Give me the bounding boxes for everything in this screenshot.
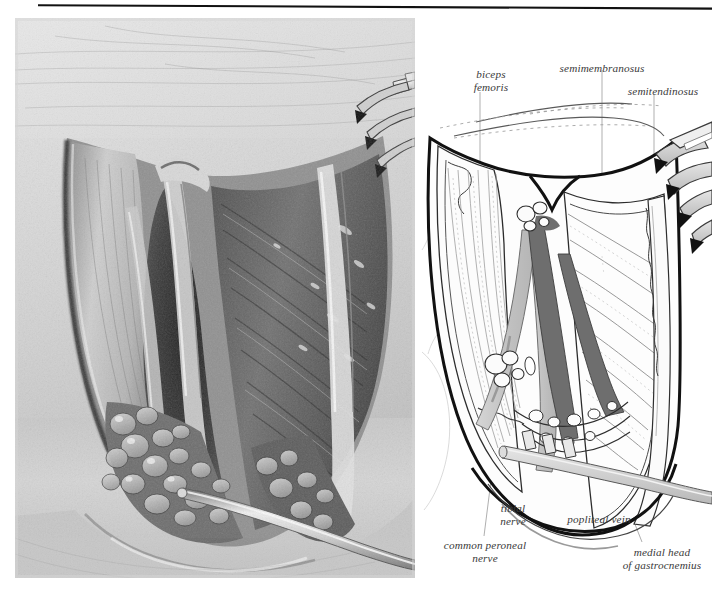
figure-root: biceps femoris semimembranosus semitendi… <box>0 0 712 593</box>
label-semitendinosus: semitendinosus <box>614 85 712 98</box>
clinical-photograph <box>15 18 415 578</box>
label-popliteal-vein: popliteal vein <box>551 513 647 526</box>
label-biceps-femoris: biceps femoris <box>456 68 526 94</box>
label-common-peroneal-nerve: common peroneal nerve <box>422 539 548 565</box>
anatomical-line-diagram <box>418 18 712 593</box>
label-medial-head-of-gastrocnemius: medial head of gastrocnemius <box>612 546 712 572</box>
top-rule <box>0 0 712 14</box>
label-tibial-nerve: tibial nerve <box>484 502 542 528</box>
label-semimembranosus: semimembranosus <box>528 62 676 75</box>
